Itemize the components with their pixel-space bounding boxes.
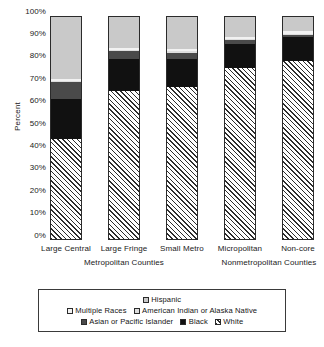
legend-entry[interactable]: American Indian or Alaska Native <box>134 305 258 316</box>
x-axis-tick-label: Large Fringe <box>101 244 148 253</box>
bar-segment <box>283 61 313 239</box>
legend-swatch-icon <box>81 319 87 325</box>
legend-row: Hispanic <box>42 294 282 305</box>
stacked-bar[interactable] <box>166 16 198 240</box>
bar-slot <box>224 16 256 240</box>
y-axis-tick-labels: 100%90%80%70%60%50%40%30%20%10%0% <box>14 11 46 241</box>
legend-entry[interactable]: Multiple Races <box>67 305 127 316</box>
bar-segment <box>167 53 197 60</box>
legend-row: Multiple RacesAmerican Indian or Alaska … <box>42 305 282 316</box>
bar-slot <box>50 16 82 240</box>
x-axis-tick-label: Micropolitan <box>218 244 262 253</box>
stacked-bar-chart: Percent 100%90%80%70%60%50%40%30%20%10%0… <box>0 0 324 347</box>
bar-segment <box>109 91 139 239</box>
bar-segment <box>109 17 139 48</box>
legend-swatch-icon <box>180 319 186 325</box>
y-axis-tick-label: 50% <box>14 119 46 128</box>
bar-segment <box>225 17 255 37</box>
legend-swatch-icon <box>134 308 140 314</box>
x-axis-tick-label: Non-core <box>281 244 315 253</box>
bar-segment <box>283 17 313 31</box>
y-axis-tick-label: 60% <box>14 96 46 105</box>
legend-swatch-icon <box>215 319 221 325</box>
y-axis-tick-label: 70% <box>14 74 46 83</box>
legend-entry[interactable]: Hispanic <box>143 294 181 305</box>
bar-segment <box>167 59 197 87</box>
stacked-bar[interactable] <box>282 16 314 240</box>
bar-slot <box>282 16 314 240</box>
x-axis-group-label: Metropolitan Counties <box>84 258 164 267</box>
legend-label: Hispanic <box>151 294 181 305</box>
legend-row: Asian or Pacific IslanderBlackWhite <box>42 316 282 327</box>
legend-entry[interactable]: Black <box>180 316 208 327</box>
bar-segment <box>51 82 81 99</box>
y-axis-tick-label: 10% <box>14 208 46 217</box>
y-axis-tick-label: 80% <box>14 51 46 60</box>
bar-segment <box>225 44 255 68</box>
y-axis-tick-label: 100% <box>14 7 46 16</box>
y-axis-tick-label: 20% <box>14 186 46 195</box>
bar-slot <box>166 16 198 240</box>
bar-segment <box>109 51 139 59</box>
bar-segment <box>51 17 81 79</box>
bar-segment <box>167 17 197 49</box>
bar-segment <box>51 139 81 239</box>
x-axis-tick-label: Small Metro <box>160 244 204 253</box>
legend-swatch-icon <box>67 308 73 314</box>
legend-label: Multiple Races <box>75 305 126 316</box>
y-axis-tick-label: 90% <box>14 29 46 38</box>
y-axis-tick-label: 0% <box>14 231 46 240</box>
bar-slot <box>108 16 140 240</box>
x-axis-group-labels: Metropolitan CountiesNonmetropolitan Cou… <box>50 258 324 272</box>
bar-segment <box>167 87 197 239</box>
bar-segment <box>283 37 313 61</box>
legend-label: Asian or Pacific Islander <box>89 316 173 327</box>
bar-segment <box>51 99 81 139</box>
plot-area <box>50 16 314 240</box>
x-axis-category-labels: Large CentralLarge FringeSmall MetroMicr… <box>50 244 324 258</box>
stacked-bar[interactable] <box>50 16 82 240</box>
chart-legend: HispanicMultiple RacesAmerican Indian or… <box>38 289 286 332</box>
legend-label: White <box>223 316 243 327</box>
legend-swatch-icon <box>143 297 149 303</box>
y-axis-tick-label: 30% <box>14 163 46 172</box>
stacked-bar[interactable] <box>224 16 256 240</box>
legend-entry[interactable]: Asian or Pacific Islander <box>81 316 173 327</box>
x-axis-tick-label: Large Central <box>41 244 91 253</box>
bar-segment <box>225 68 255 239</box>
legend-label: Black <box>189 316 208 327</box>
legend-entry[interactable]: White <box>215 316 243 327</box>
y-axis-tick-label: 40% <box>14 141 46 150</box>
x-axis-group-label: Nonmetropolitan Counties <box>222 258 317 267</box>
stacked-bar[interactable] <box>108 16 140 240</box>
legend-label: American Indian or Alaska Native <box>142 305 257 316</box>
bar-segment <box>109 59 139 91</box>
